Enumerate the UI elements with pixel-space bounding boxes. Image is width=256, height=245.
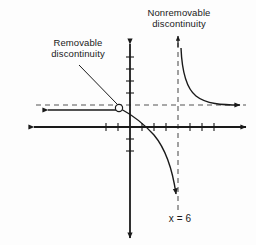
curve-right-branch	[181, 48, 240, 105]
discontinuity-figure: Removable discontinuity Nonremovable dis…	[0, 0, 256, 245]
removable-leader-line	[79, 65, 117, 104]
removable-label-line2: discontinuity	[42, 49, 114, 60]
nonremovable-label-line2: discontinuity	[139, 19, 219, 30]
vertical-asymptote-label: x = 6	[160, 213, 200, 225]
removable-discontinuity-hole	[115, 104, 122, 111]
nonremovable-discontinuity-label: Nonremovable discontinuity	[139, 8, 219, 30]
removable-discontinuity-label: Removable discontinuity	[42, 38, 114, 60]
graph-canvas	[0, 0, 256, 245]
